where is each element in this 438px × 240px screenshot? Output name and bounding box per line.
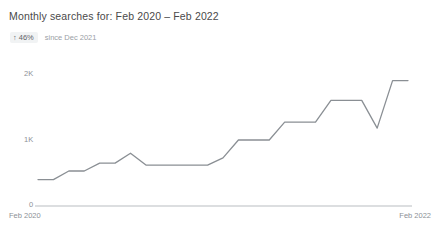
monthly-searches-chart-widget: Monthly searches for: Feb 2020 – Feb 202…: [0, 0, 438, 240]
line-chart-svg: [0, 0, 438, 240]
y-axis-tick-1k: 1K: [24, 135, 33, 144]
x-axis-tick-end: Feb 2022: [399, 211, 431, 220]
series-line-monthly-searches: [38, 81, 408, 180]
chart-plot-area: [0, 0, 438, 240]
y-axis-tick-0: 0: [29, 200, 33, 209]
x-axis-tick-start: Feb 2020: [9, 211, 41, 220]
y-axis-tick-2k: 2K: [24, 69, 33, 78]
